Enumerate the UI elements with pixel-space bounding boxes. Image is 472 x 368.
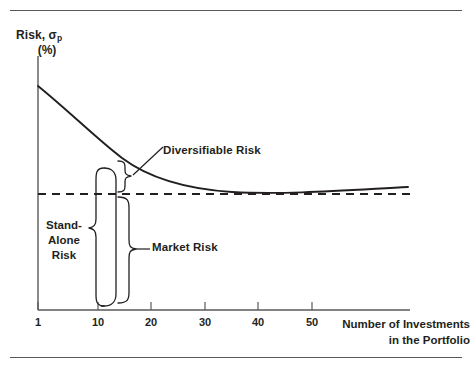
brace-market-risk: [118, 197, 136, 303]
x-axis-title-line1: Number of Investments: [342, 318, 470, 330]
stand-alone-bracket-sides: [101, 168, 116, 306]
x-axis-title-line2: in the Portfolio: [330, 332, 470, 348]
x-tick-label-30: 30: [190, 316, 220, 328]
x-axis-ticks: [38, 302, 312, 310]
annotation-label-diversifiable-risk: Diversifiable Risk: [163, 144, 261, 156]
annotation-label-market-risk: Market Risk: [152, 241, 218, 253]
x-axis-title: Number of Investments in the Portfolio: [330, 316, 470, 348]
x-tick-label-50: 50: [297, 316, 327, 328]
x-tick-label-20: 20: [136, 316, 166, 328]
x-tick-label-1: 1: [23, 316, 53, 328]
series-total-risk-curve: [38, 86, 408, 193]
leader-diversifiable-risk: [133, 147, 163, 175]
y-axis-title-subscript: p: [57, 33, 62, 43]
x-tick-label-40: 40: [243, 316, 273, 328]
brace-diversifiable-risk: [118, 161, 131, 192]
annotation-label-stand-alone-risk: Stand-Alone Risk: [33, 218, 95, 263]
x-tick-label-10: 10: [83, 316, 113, 328]
stand-alone-capsule-outline: [94, 164, 118, 308]
stand-alone-risk-line2: Risk: [33, 248, 95, 263]
y-axis-unit-label: (%): [16, 43, 78, 57]
y-axis-title-main: Risk, σ: [16, 28, 57, 42]
figure-container: Risk, σp (%) 1 10 20 30 40 50 Number of …: [0, 0, 472, 368]
stand-alone-risk-line1: Stand-Alone: [46, 219, 82, 246]
